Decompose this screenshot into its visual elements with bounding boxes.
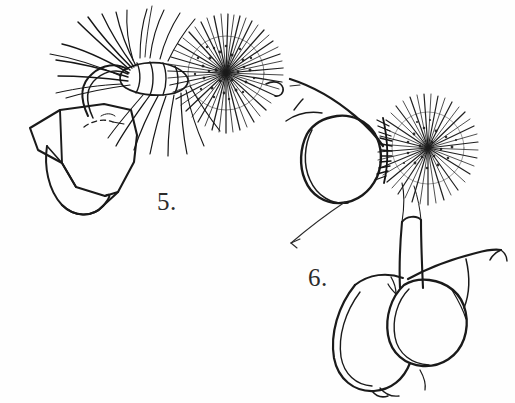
illustration-plate: 5. 6. bbox=[0, 0, 515, 403]
figure-label-6: 6. bbox=[308, 264, 328, 292]
line-art-canvas bbox=[0, 0, 515, 403]
figure-label-5: 5. bbox=[157, 188, 177, 216]
